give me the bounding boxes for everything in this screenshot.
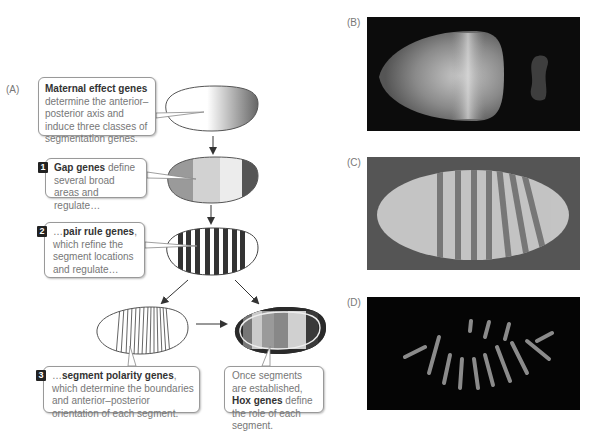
hox-embryo bbox=[230, 300, 330, 360]
pair-rule-prefix: … bbox=[53, 226, 63, 237]
callout-hox-genes: Once segments are established, Hox genes… bbox=[224, 366, 324, 413]
maternal-description: determine the anterior–posterior axis an… bbox=[45, 96, 148, 145]
hox-heading: Hox genes bbox=[232, 395, 283, 406]
gap-embryo bbox=[160, 150, 262, 210]
callout-segment-polarity-genes: 3…segment polarity genes, which determin… bbox=[43, 366, 200, 413]
panel-b-label: (B) bbox=[347, 17, 360, 28]
callout-maternal-effect: Maternal effect genes determine the ante… bbox=[38, 77, 156, 136]
segment-polarity-prefix: … bbox=[52, 370, 62, 381]
pair-rule-embryo bbox=[160, 224, 260, 279]
panel-c-label: (C) bbox=[347, 157, 361, 168]
maternal-heading: Maternal effect genes bbox=[45, 83, 147, 94]
callout-pair-rule-genes: 2…pair rule genes, which refine the segm… bbox=[44, 222, 145, 278]
arrow-down-right-icon bbox=[235, 280, 258, 303]
panel-d-micrograph bbox=[367, 297, 580, 410]
panel-d-label: (D) bbox=[347, 297, 361, 308]
step-badge-3: 3 bbox=[36, 370, 46, 381]
callout-gap-genes: 1Gap genes define several broad areas an… bbox=[45, 158, 147, 198]
segment-polarity-embryo bbox=[90, 300, 190, 360]
pair-rule-heading: pair rule genes bbox=[63, 226, 134, 237]
step-badge-1: 1 bbox=[38, 162, 48, 173]
panel-c-micrograph bbox=[367, 157, 580, 270]
panel-b-micrograph bbox=[367, 17, 580, 131]
hox-text-1: Once segments are established, bbox=[232, 370, 303, 394]
arrow-down-left-icon bbox=[162, 280, 188, 303]
segment-polarity-heading: segment polarity genes bbox=[62, 370, 174, 381]
gap-heading: Gap genes bbox=[54, 162, 105, 173]
step-badge-2: 2 bbox=[37, 226, 47, 237]
maternal-embryo bbox=[166, 86, 258, 131]
